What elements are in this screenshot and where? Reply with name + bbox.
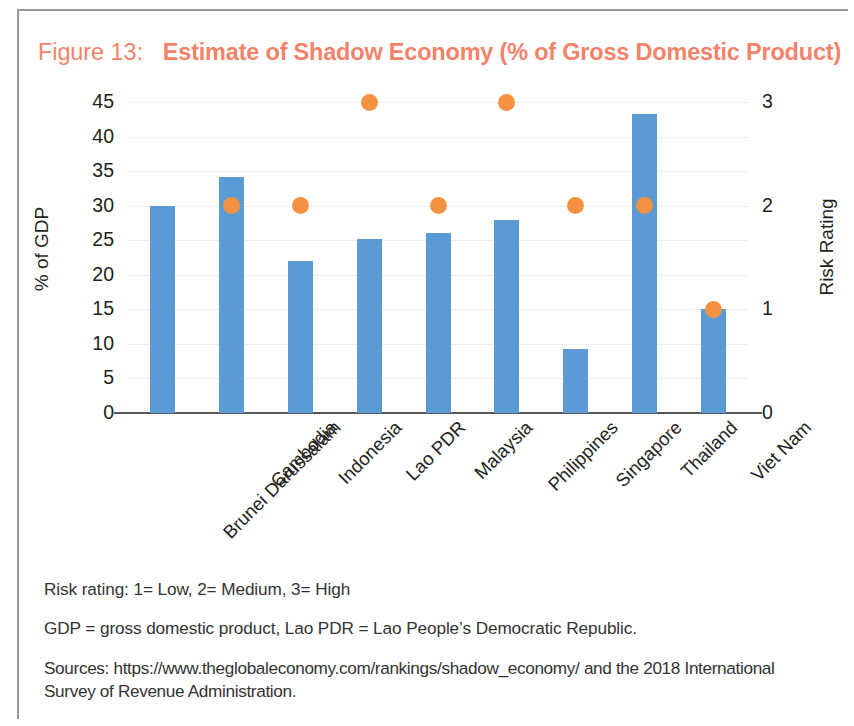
figure-note: Risk rating: 1= Low, 2= Medium, 3= High	[44, 578, 824, 601]
x-axis-category-labels: Brunei DarussalamCambodiaIndonesiaLao PD…	[128, 418, 768, 543]
y-axis-left-tick-label: 25	[70, 230, 114, 250]
y-axis-left-tick-label: 10	[70, 334, 114, 354]
x-axis-tick-label: Indonesia	[336, 418, 406, 488]
bar	[357, 239, 382, 413]
figure-title-row: Figure 13: Estimate of Shadow Economy (%…	[38, 39, 838, 71]
y-axis-right-title: Risk Rating	[816, 198, 838, 295]
risk-rating-dot	[705, 301, 722, 318]
risk-rating-dot	[223, 197, 240, 214]
y-axis-right-tick-label: 2	[762, 196, 796, 216]
x-axis-tick-label: Viet Nam	[748, 418, 815, 485]
figure-notes: Risk rating: 1= Low, 2= Medium, 3= HighG…	[44, 578, 824, 704]
x-axis-tick-label: Singapore	[612, 418, 685, 491]
figure-number-label: Figure 13:	[38, 39, 143, 66]
bar	[632, 114, 657, 413]
bar	[288, 261, 313, 413]
y-axis-right-ticks: 0123	[762, 102, 796, 413]
bar	[563, 349, 588, 413]
figure-source-note: Sources: https://www.theglobaleconomy.co…	[44, 657, 824, 704]
y-axis-left-tick-label: 0	[70, 403, 114, 423]
chart-area: 051015202530354045 % of GDP 0123 Risk Ra…	[38, 88, 838, 543]
x-axis-tick-label: Cambodia	[268, 418, 341, 491]
y-axis-right-tick-label: 3	[762, 92, 796, 112]
risk-rating-dot	[430, 197, 447, 214]
figure-note: GDP = gross domestic product, Lao PDR = …	[44, 617, 824, 640]
y-axis-right-tick-label: 1	[762, 300, 796, 320]
bar	[701, 309, 726, 413]
y-axis-left-tick-label: 45	[70, 92, 114, 112]
figure-container: Figure 13: Estimate of Shadow Economy (%…	[0, 0, 854, 726]
y-axis-left-tick-label: 35	[70, 161, 114, 181]
x-axis-tick-label: Malaysia	[471, 418, 536, 483]
risk-rating-dot	[498, 94, 515, 111]
y-axis-left-ticks: 051015202530354045	[64, 102, 114, 413]
risk-rating-dot	[361, 94, 378, 111]
y-axis-left-tick-label: 5	[70, 369, 114, 389]
y-axis-left-title: % of GDP	[31, 207, 53, 291]
bar	[426, 233, 451, 413]
y-axis-left-tick-label: 15	[70, 300, 114, 320]
x-axis-tick-label: Lao PDR	[403, 418, 469, 484]
gridline	[128, 102, 748, 103]
x-axis-tick-label: Thailand	[677, 418, 740, 481]
y-axis-left-tick-label: 20	[70, 265, 114, 285]
x-axis-tick-label: Philippines	[545, 418, 621, 494]
bar	[494, 220, 519, 414]
risk-rating-dot	[292, 197, 309, 214]
risk-rating-dot	[567, 197, 584, 214]
y-axis-left-tick-label: 40	[70, 127, 114, 147]
bar	[150, 206, 175, 413]
y-axis-left-tick-label: 30	[70, 196, 114, 216]
figure-title: Estimate of Shadow Economy (% of Gross D…	[163, 39, 841, 66]
plot-region	[128, 102, 748, 413]
